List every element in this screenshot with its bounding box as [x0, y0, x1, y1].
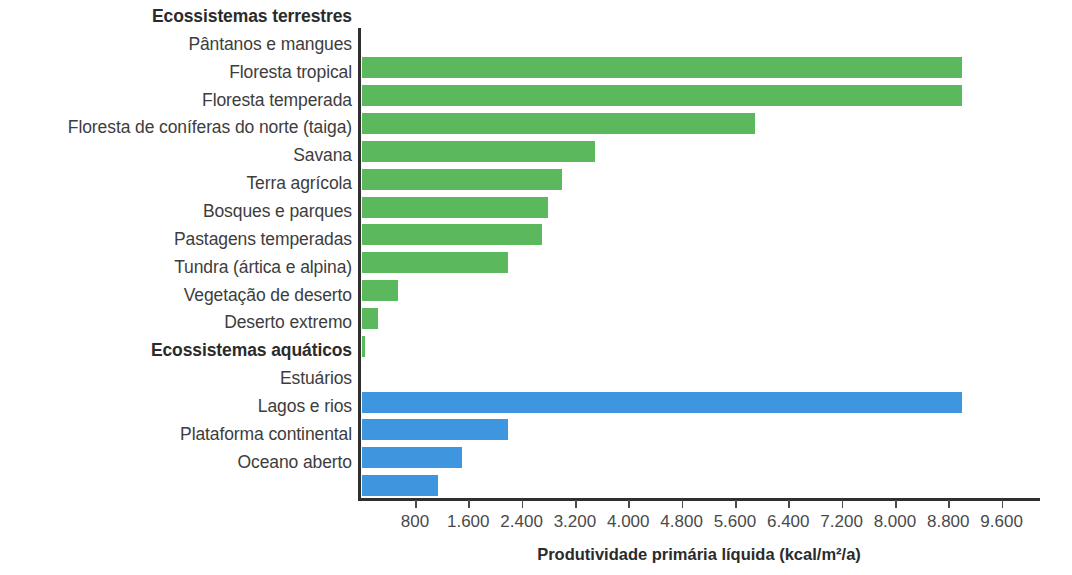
x-axis-title: Produtividade primária líquida (kcal/m²/… — [358, 545, 1040, 564]
x-axis-tick — [895, 500, 897, 508]
x-axis-tick — [682, 500, 684, 508]
group-heading-label: Ecossistemas terrestres — [0, 8, 352, 26]
x-axis-line — [358, 498, 1040, 501]
x-axis-tick — [575, 500, 577, 508]
x-axis-tick — [948, 500, 950, 508]
category-label: Bosques e parques — [0, 203, 352, 221]
category-label: Floresta temperada — [0, 92, 352, 110]
x-axis-tick — [468, 500, 470, 508]
x-axis-tick-label: 4.800 — [660, 512, 703, 532]
bar — [362, 392, 962, 413]
x-axis-tick — [735, 500, 737, 508]
bar — [362, 308, 379, 329]
category-label: Vegetação de deserto — [0, 287, 352, 305]
x-axis-tick-label: 7.200 — [820, 512, 863, 532]
bar — [362, 141, 595, 162]
category-label: Estuários — [0, 370, 352, 388]
category-label: Savana — [0, 147, 352, 165]
x-axis-tick — [1002, 500, 1004, 508]
category-label: Floresta de coníferas do norte (taiga) — [0, 119, 352, 137]
plot-area: 8001.6002.4003.2004.0004.8005.6006.4007.… — [358, 28, 1040, 500]
bar — [362, 475, 439, 496]
category-label-column: Ecossistemas terrestresPântanos e mangue… — [0, 0, 352, 500]
x-axis-tick-label: 8.800 — [927, 512, 970, 532]
category-label: Tundra (ártica e alpina) — [0, 259, 352, 277]
x-axis-tick-label: 3.200 — [554, 512, 597, 532]
category-label: Plataforma continental — [0, 426, 352, 444]
x-axis-tick-label: 1.600 — [447, 512, 490, 532]
bar — [362, 280, 399, 301]
category-label: Pastagens temperadas — [0, 231, 352, 249]
bar — [362, 85, 962, 106]
x-axis-tick-label: 800 — [401, 512, 429, 532]
bar — [362, 447, 462, 468]
x-axis-tick-label: 6.400 — [767, 512, 810, 532]
x-axis-tick — [628, 500, 630, 508]
bar-chart: Ecossistemas terrestresPântanos e mangue… — [0, 0, 1072, 575]
bar — [362, 113, 755, 134]
x-axis-tick — [788, 500, 790, 508]
category-label: Deserto extremo — [0, 314, 352, 332]
x-axis-tick — [522, 500, 524, 508]
bar — [362, 169, 562, 190]
bar — [362, 197, 549, 218]
x-axis-tick-label: 8.000 — [874, 512, 917, 532]
bar — [362, 57, 962, 78]
category-label: Lagos e rios — [0, 398, 352, 416]
category-label: Pântanos e mangues — [0, 36, 352, 54]
bar — [362, 419, 509, 440]
category-label: Terra agrícola — [0, 175, 352, 193]
x-axis-tick-label: 5.600 — [714, 512, 757, 532]
category-label: Oceano aberto — [0, 454, 352, 472]
x-axis-tick — [415, 500, 417, 508]
group-heading-label: Ecossistemas aquáticos — [0, 342, 352, 360]
category-label: Floresta tropical — [0, 64, 352, 82]
bar — [362, 336, 365, 357]
x-axis-tick — [842, 500, 844, 508]
x-axis-tick-label: 9.600 — [980, 512, 1023, 532]
x-axis-tick-label: 4.000 — [607, 512, 650, 532]
bar — [362, 252, 509, 273]
y-axis-line — [358, 28, 361, 500]
bar — [362, 224, 542, 245]
x-axis-tick-label: 2.400 — [500, 512, 543, 532]
